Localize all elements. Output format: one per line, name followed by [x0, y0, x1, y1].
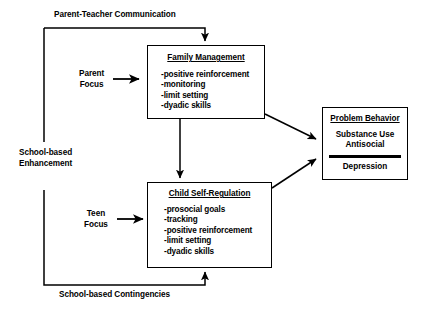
list-item: Depression	[323, 162, 407, 172]
list-item: -positive reinforcement	[164, 226, 271, 236]
list-item: -limit setting	[161, 91, 264, 101]
label-parent-focus: Parent Focus	[79, 69, 104, 90]
list-item: -monitoring	[161, 80, 264, 90]
node-child-self-regulation-items: -prosocial goals -tracking -positive rei…	[148, 205, 271, 257]
list-item: Substance Use	[323, 130, 407, 140]
label-parent-focus-line1: Parent	[79, 69, 104, 80]
label-parent-focus-line2: Focus	[79, 80, 104, 91]
label-school-based-contingencies: School-based Contingencies	[59, 290, 170, 301]
node-family-management: Family Management -positive reinforcemen…	[147, 45, 265, 119]
node-problem-behavior-title: Problem Behavior	[323, 114, 407, 123]
label-school-based-enhancement-line1: School-based	[19, 148, 72, 159]
list-item: -prosocial goals	[164, 205, 271, 215]
list-item: -tracking	[164, 215, 271, 225]
list-item: -dyadic skills	[161, 101, 264, 111]
node-problem-behavior-upper-group: Substance Use Antisocial	[323, 130, 407, 150]
label-school-based-enhancement: School-based Enhancement	[19, 148, 72, 169]
node-family-management-title: Family Management	[148, 53, 264, 62]
node-problem-behavior-lower-group: Depression	[323, 162, 407, 172]
connector-child-to-problem-behavior	[272, 159, 316, 188]
label-teen-focus-line2: Focus	[84, 220, 108, 231]
label-teen-focus-line1: Teen	[84, 209, 108, 220]
list-item: -limit setting	[164, 236, 271, 246]
list-item: -positive reinforcement	[161, 70, 264, 80]
node-child-self-regulation: Child Self-Regulation -prosocial goals -…	[147, 182, 272, 268]
connector-family-to-problem-behavior	[265, 114, 316, 139]
node-problem-behavior: Problem Behavior Substance Use Antisocia…	[322, 107, 408, 180]
problem-behavior-divider	[329, 155, 401, 158]
node-family-management-items: -positive reinforcement -monitoring -lim…	[148, 70, 264, 112]
connector-parent-teacher-communication	[44, 28, 205, 41]
diagram-canvas: Family Management -positive reinforcemen…	[0, 0, 427, 311]
label-parent-teacher-communication: Parent-Teacher Communication	[54, 10, 176, 21]
label-teen-focus: Teen Focus	[84, 209, 108, 230]
list-item: Antisocial	[323, 140, 407, 150]
node-child-self-regulation-title: Child Self-Regulation	[148, 189, 271, 198]
list-item: -dyadic skills	[164, 247, 271, 257]
label-school-based-enhancement-line2: Enhancement	[19, 159, 72, 170]
